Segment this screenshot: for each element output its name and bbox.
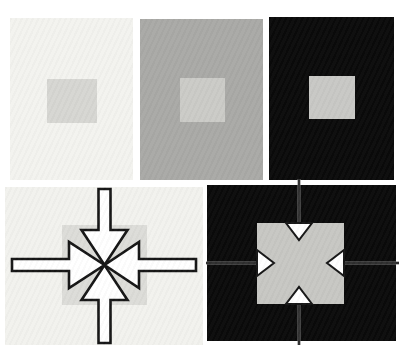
panel-gray-background: [140, 19, 263, 180]
panel-converging-arrows-black: [207, 185, 396, 341]
panel-light-background: [10, 18, 133, 180]
panel-converging-arrows-light: [5, 187, 203, 345]
contrast-square-on-light: [47, 79, 97, 123]
converging-arrows-graphic: [5, 187, 203, 345]
illusion-figure: [0, 0, 404, 355]
contrast-square-on-gray: [180, 78, 225, 122]
panel-black-background: [269, 17, 394, 180]
quartered-field-graphic: [207, 185, 396, 341]
contrast-square-on-black: [309, 76, 355, 119]
